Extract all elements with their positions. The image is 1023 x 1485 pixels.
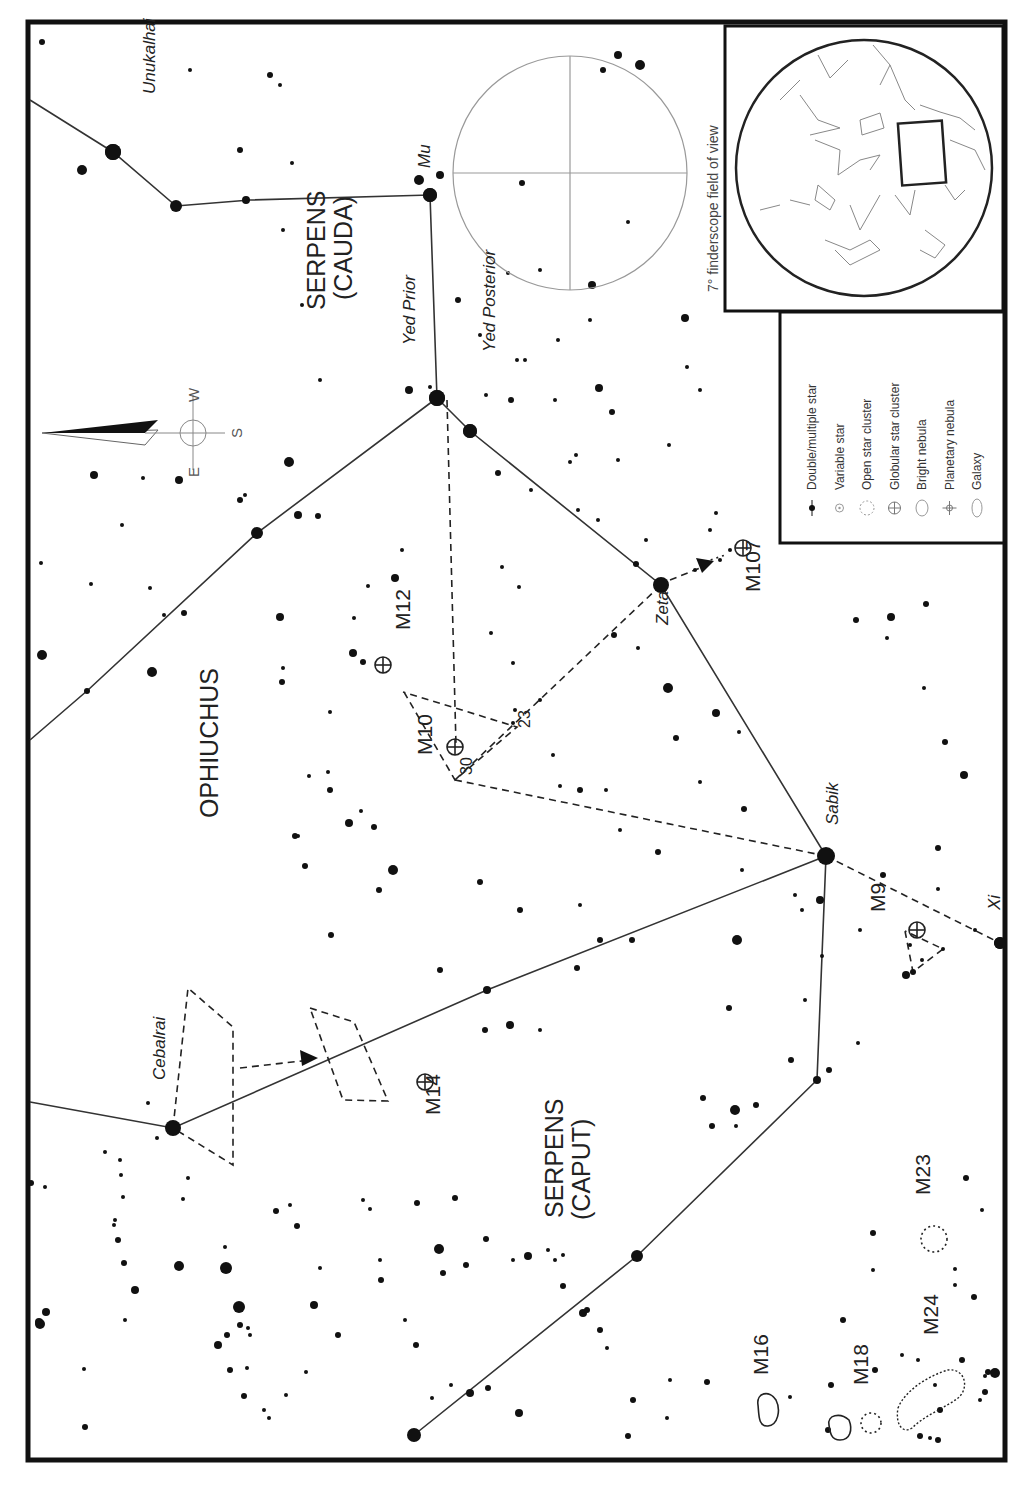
star-icon bbox=[237, 497, 243, 503]
star-icon bbox=[636, 646, 640, 650]
star-icon bbox=[902, 971, 910, 979]
star-icon bbox=[220, 1262, 232, 1274]
star-icon bbox=[84, 688, 90, 694]
star-chart: W E S SERPENS(CAUDA)OPHIUCHUSSERPENS(CAP… bbox=[0, 0, 1023, 1485]
star-icon bbox=[485, 1385, 491, 1391]
star-icon bbox=[605, 1346, 609, 1350]
star-icon bbox=[788, 1057, 794, 1063]
star-icon bbox=[371, 824, 377, 830]
globular-cluster-icon-m9 bbox=[909, 922, 925, 938]
bright-star-yed-prior bbox=[429, 390, 445, 406]
label-m18: M18 bbox=[849, 1344, 872, 1385]
legend-label: Planetary nebula bbox=[943, 400, 957, 490]
star-icon bbox=[288, 1203, 292, 1207]
star-icon bbox=[276, 613, 284, 621]
constellation-lines bbox=[30, 100, 826, 1435]
label-m10: M10 bbox=[413, 714, 436, 755]
star-icon bbox=[437, 967, 443, 973]
star-icon bbox=[644, 538, 648, 542]
label-m23: M23 bbox=[911, 1154, 934, 1195]
star-icon bbox=[560, 1283, 566, 1289]
star-icon bbox=[388, 865, 398, 875]
star-icon bbox=[452, 1195, 458, 1201]
star-icon bbox=[77, 165, 87, 175]
star-icon bbox=[673, 735, 679, 741]
legend-label: Double/multiple star bbox=[805, 384, 819, 490]
bright-star-mu bbox=[423, 188, 437, 202]
star-icon bbox=[233, 1301, 245, 1313]
star-icon bbox=[318, 378, 322, 382]
star-icon bbox=[609, 409, 615, 415]
star-icon bbox=[800, 908, 804, 912]
star-icon bbox=[597, 937, 603, 943]
star-icon bbox=[712, 709, 720, 717]
star-icon bbox=[980, 1208, 984, 1212]
star-icon bbox=[515, 1409, 523, 1417]
star-icon bbox=[737, 730, 741, 734]
label-m12: M12 bbox=[391, 589, 414, 630]
star-icon bbox=[704, 1379, 710, 1385]
star-icon bbox=[793, 893, 797, 897]
star-icon bbox=[741, 806, 747, 812]
star-icon bbox=[477, 879, 483, 885]
star-icon bbox=[600, 67, 606, 73]
label-m9: M9 bbox=[866, 883, 889, 912]
arrowhead-icon bbox=[300, 1050, 318, 1066]
star-icon bbox=[858, 928, 862, 932]
star-icon bbox=[870, 1230, 876, 1236]
star-icon bbox=[440, 1270, 446, 1276]
star-icon bbox=[578, 903, 582, 907]
star-icon bbox=[973, 928, 977, 932]
star-icon bbox=[753, 1102, 759, 1108]
star-icon bbox=[828, 1382, 834, 1388]
star-icon bbox=[281, 228, 285, 232]
star-icon bbox=[90, 471, 98, 479]
star-icon bbox=[595, 384, 603, 392]
star-icon bbox=[538, 1028, 542, 1032]
star-icon bbox=[455, 297, 461, 303]
star-icon bbox=[588, 318, 592, 322]
star-icon bbox=[872, 1367, 878, 1373]
legend-label: Bright nebula bbox=[915, 419, 929, 490]
star-icon bbox=[885, 636, 889, 640]
globular-cluster-icon-m12 bbox=[375, 657, 391, 673]
star-icon bbox=[378, 1258, 382, 1262]
star-icon bbox=[227, 1367, 233, 1373]
star-icon bbox=[655, 849, 661, 855]
star-icon bbox=[407, 1428, 421, 1442]
star-icon bbox=[576, 508, 580, 512]
star-icon bbox=[732, 935, 742, 945]
star-icon bbox=[414, 1200, 420, 1206]
star-icon bbox=[376, 887, 382, 893]
star-icon bbox=[273, 1208, 279, 1214]
star-icon bbox=[251, 527, 263, 539]
star-icon bbox=[698, 780, 702, 784]
star-icon bbox=[626, 220, 630, 224]
star-icon bbox=[511, 1258, 515, 1262]
star-icon bbox=[120, 523, 124, 527]
star-icon bbox=[508, 397, 514, 403]
star-icon bbox=[146, 1101, 150, 1105]
star-icon bbox=[360, 659, 366, 665]
star-icon bbox=[985, 1369, 991, 1375]
star-icon bbox=[728, 548, 732, 552]
star-icon bbox=[414, 175, 424, 185]
star-icon bbox=[284, 457, 294, 467]
star-icon bbox=[916, 1358, 920, 1362]
label-serpens-caput-2: (CAPUT) bbox=[567, 1119, 595, 1220]
star-icon bbox=[523, 358, 527, 362]
star-icon bbox=[428, 385, 432, 389]
legend-label: Galaxy bbox=[970, 453, 984, 490]
star-icon bbox=[82, 1424, 88, 1430]
star-icon bbox=[391, 574, 399, 582]
star-icon bbox=[243, 493, 247, 497]
star-icon bbox=[224, 1332, 230, 1338]
globular-cluster-icon-m10 bbox=[447, 739, 463, 755]
star-icon bbox=[310, 1301, 318, 1309]
star-icon bbox=[553, 398, 557, 402]
star-icon bbox=[681, 314, 689, 322]
star-icon bbox=[553, 1258, 557, 1262]
star-icon bbox=[515, 358, 519, 362]
star-icon bbox=[335, 1332, 341, 1338]
star-icon bbox=[568, 460, 572, 464]
